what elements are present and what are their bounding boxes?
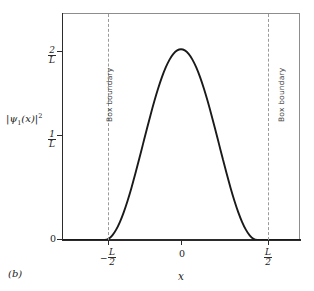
- x-tick-mark-L-over-2: [268, 240, 269, 245]
- curve-path: [62, 49, 300, 240]
- y-axis-title-argument: (x): [21, 113, 34, 124]
- fraction-2-over-L: 2 L: [48, 46, 56, 65]
- fraction-denominator: L: [48, 55, 56, 65]
- y-tick-mark-1overL: [57, 135, 63, 136]
- box-boundary-line-right: [268, 14, 269, 240]
- fraction-L-over-2: L 2: [108, 248, 116, 267]
- fraction-denominator: L: [48, 139, 56, 149]
- y-tick-mark-2overL: [57, 51, 63, 52]
- x-tick-label-zero: 0: [172, 248, 192, 259]
- figure-panel-b: Box boundary Box boundary 0 1 L 2 L − L …: [0, 0, 314, 291]
- fraction-numerator: 2: [48, 46, 56, 55]
- fraction-numerator: 1: [48, 130, 56, 139]
- y-tick-label-1overL: 1 L: [42, 129, 56, 149]
- fraction-L-over-2: L 2: [264, 248, 272, 267]
- x-tick-label-L-over-2: L 2: [254, 247, 282, 267]
- fraction-denominator: 2: [108, 257, 116, 267]
- y-axis-title: |ψ1(x)|2: [6, 112, 42, 127]
- fraction-denominator: 2: [264, 257, 272, 267]
- y-axis-title-exponent: 2: [38, 112, 42, 120]
- panel-label: (b): [8, 268, 22, 279]
- minus-sign: −: [100, 253, 108, 263]
- x-tick-mark-zero: [181, 240, 182, 245]
- y-tick-label-2overL: 2 L: [42, 45, 56, 65]
- box-boundary-label-right: Box boundary: [277, 68, 286, 122]
- box-boundary-line-left: [108, 14, 109, 240]
- box-boundary-label-left: Box boundary: [105, 68, 114, 122]
- fraction-1-over-L: 1 L: [48, 130, 56, 149]
- fraction-numerator: L: [108, 248, 116, 257]
- x-axis-title: x: [166, 270, 196, 282]
- x-tick-mark-neg-L-over-2: [108, 240, 109, 245]
- y-tick-label-0: 0: [46, 233, 56, 244]
- x-tick-label-neg-L-over-2: − L 2: [92, 247, 124, 267]
- probability-density-curve: [62, 13, 300, 240]
- fraction-numerator: L: [264, 248, 272, 257]
- y-tick-mark-0: [57, 239, 63, 240]
